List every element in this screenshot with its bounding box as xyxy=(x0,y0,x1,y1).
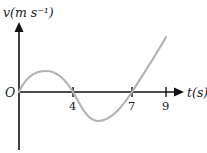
y-axis-arrow-icon xyxy=(15,22,24,32)
y-axis-label: v(m s⁻¹) xyxy=(3,5,54,20)
x-axis-label: t(s) xyxy=(187,85,207,100)
origin-label: O xyxy=(5,85,15,100)
velocity-time-graph: v(m s⁻¹) t(s) O 4 7 9 xyxy=(0,0,207,153)
velocity-curve xyxy=(19,37,166,121)
x-tick-label-7: 7 xyxy=(128,99,135,113)
x-tick-label-9: 9 xyxy=(162,99,169,113)
x-tick-label-4: 4 xyxy=(69,99,76,113)
x-axis-arrow-icon xyxy=(174,88,184,97)
